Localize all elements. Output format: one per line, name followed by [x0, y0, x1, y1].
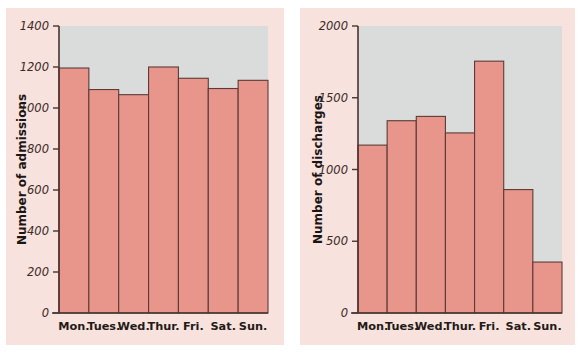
x-category-label: Mon. [58, 320, 89, 333]
bar-mon [59, 68, 89, 313]
bar-tues [89, 90, 119, 313]
bar-thur [445, 133, 474, 313]
y-tick-label: 500 [326, 234, 348, 248]
y-tick-label: 2000 [319, 19, 348, 33]
y-tick-label: 400 [27, 224, 49, 238]
x-category-label: Mon. [357, 320, 388, 333]
x-category-label: Thur. [444, 320, 476, 333]
x-category-label: Fri. [479, 320, 500, 333]
x-category-label: Sat. [506, 320, 531, 333]
discharges-bar-chart: 0500100015002000Mon.Tues.Wed.Thur.Fri.Sa… [300, 8, 575, 345]
y-tick-label: 600 [27, 183, 49, 197]
bar-fri [475, 61, 504, 313]
y-tick-label: 1400 [20, 19, 49, 33]
x-category-label: Tues. [87, 320, 120, 333]
bar-sat [208, 89, 238, 313]
x-category-label: Sun. [239, 320, 268, 333]
bar-sat [504, 190, 533, 313]
bar-wed [119, 95, 149, 313]
figure-page: 0200400600800100012001400Mon.Tues.Wed.Th… [0, 0, 580, 353]
bar-wed [416, 116, 445, 313]
bar-sun [533, 262, 562, 313]
bar-thur [149, 67, 179, 313]
bar-fri [178, 78, 208, 313]
chart-panel-admissions: 0200400600800100012001400Mon.Tues.Wed.Th… [6, 8, 284, 345]
x-category-label: Wed. [118, 320, 150, 333]
y-axis-title: Number of admissions [15, 94, 29, 245]
x-category-label: Thur. [147, 320, 179, 333]
x-category-label: Sat. [210, 320, 235, 333]
bar-tues [387, 121, 416, 313]
x-category-label: Fri. [183, 320, 204, 333]
admissions-bar-chart: 0200400600800100012001400Mon.Tues.Wed.Th… [6, 8, 284, 345]
x-category-label: Sun. [533, 320, 562, 333]
y-tick-label: 1200 [20, 60, 49, 74]
y-tick-label: 800 [27, 142, 49, 156]
y-tick-label: 0 [42, 306, 49, 320]
x-category-label: Tues. [385, 320, 418, 333]
y-tick-label: 0 [341, 306, 348, 320]
bar-mon [358, 145, 387, 313]
x-category-label: Wed. [415, 320, 447, 333]
y-axis-title: Number of discharges [311, 95, 325, 244]
chart-panel-discharges: 0500100015002000Mon.Tues.Wed.Thur.Fri.Sa… [300, 8, 575, 345]
y-tick-label: 200 [27, 265, 49, 279]
bar-sun [238, 80, 268, 313]
